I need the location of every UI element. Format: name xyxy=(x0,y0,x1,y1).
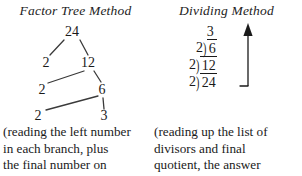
factor-tree-method-title: Factor Tree Method xyxy=(0,3,151,19)
tree-node: 3 xyxy=(101,109,108,123)
tree-node: 2 xyxy=(43,56,50,70)
factor-tree-caption: (reading the left number in each branch,… xyxy=(3,124,151,174)
tree-node: 2 xyxy=(39,83,46,97)
tree-branch xyxy=(94,71,101,82)
division-dividend: 24 xyxy=(200,73,217,91)
division-divisor: 2 xyxy=(196,39,203,56)
caption-line: the final number on xyxy=(3,157,151,174)
factor-tree-diagram: 242122623 xyxy=(0,22,151,120)
tree-node: 2 xyxy=(35,109,42,123)
division-dividend: 12 xyxy=(200,56,217,74)
tree-branch xyxy=(80,40,88,55)
division-divisor: 2 xyxy=(189,73,196,90)
tree-branch xyxy=(46,96,98,110)
factor-tree-method-column: Factor Tree Method 242122623 (reading th… xyxy=(0,0,151,176)
tree-branch xyxy=(50,40,64,55)
division-divisor: 2 xyxy=(189,56,196,73)
division-dividend: 6 xyxy=(207,39,217,57)
tree-node: 12 xyxy=(81,56,95,70)
caption-line: quotient, the answer xyxy=(154,157,302,174)
dividing-method-column: Dividing Method 3 2)62)122)24 (reading u… xyxy=(151,0,302,176)
division-row: 2)6 xyxy=(189,39,217,56)
read-upward-arrow xyxy=(239,22,257,94)
tree-node: 6 xyxy=(99,83,106,97)
division-row: 2)12 xyxy=(189,56,217,73)
tree-node: 24 xyxy=(65,25,79,39)
division-diagram: 3 2)62)122)24 xyxy=(151,24,302,120)
division-bracket-glyph: ) xyxy=(196,72,199,93)
caption-line: (reading the left number xyxy=(3,124,151,141)
division-bracket: )6 xyxy=(203,39,217,57)
tree-branch xyxy=(48,71,84,83)
division-stack: 3 2)62)122)24 xyxy=(189,24,217,90)
division-quotient-row: 3 xyxy=(189,24,217,39)
caption-line: (reading up the list of xyxy=(154,124,302,141)
dividing-method-title: Dividing Method xyxy=(151,3,302,19)
division-bracket: )24 xyxy=(196,73,217,91)
dividing-method-caption: (reading up the list of divisors and fin… xyxy=(154,124,302,174)
division-quotient: 3 xyxy=(207,24,214,39)
caption-line: divisors and final xyxy=(154,141,302,158)
division-row: 2)24 xyxy=(189,73,217,90)
caption-line: in each branch, plus xyxy=(3,141,151,158)
factorization-comparison-figure: Factor Tree Method 242122623 (reading th… xyxy=(0,0,302,176)
